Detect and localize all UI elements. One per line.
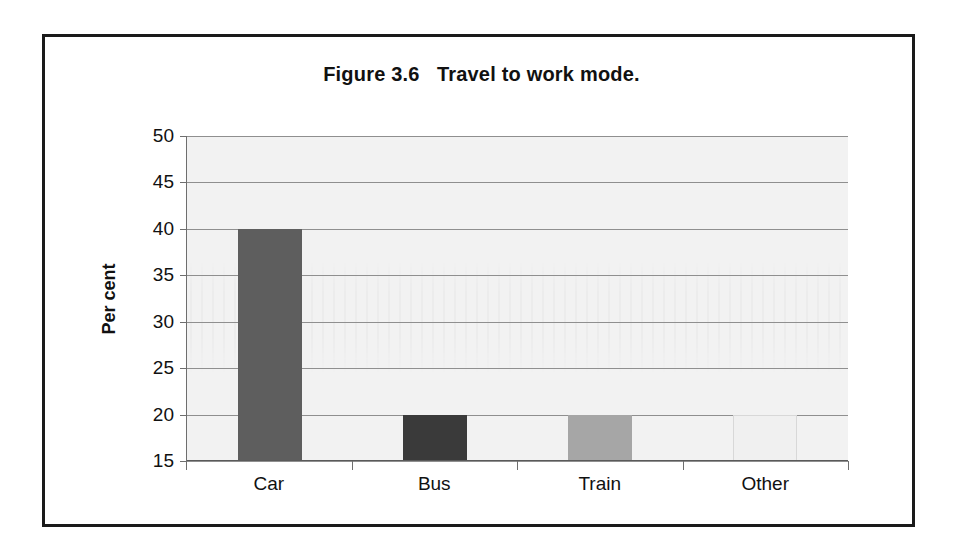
y-axis-tick-label: 25 bbox=[153, 357, 174, 379]
y-axis-tick-label: 30 bbox=[153, 311, 174, 333]
y-axis-tick-labels: 5045403530252015 bbox=[116, 136, 186, 461]
x-axis-tick-label-train: Train bbox=[517, 473, 683, 495]
x-axis-tick-labels: CarBusTrainOther bbox=[186, 473, 848, 495]
x-axis-tick-label-other: Other bbox=[683, 473, 849, 495]
y-axis-title: Per cent bbox=[99, 263, 120, 334]
bar-slot bbox=[187, 136, 352, 461]
bar-slot bbox=[518, 136, 683, 461]
x-axis-tick-mark bbox=[683, 461, 684, 470]
x-axis-tick-label-car: Car bbox=[186, 473, 352, 495]
y-axis-tick-label: 15 bbox=[153, 450, 174, 472]
x-axis-tick-marks bbox=[186, 461, 848, 470]
y-axis-tick-label: 35 bbox=[153, 264, 174, 286]
x-axis-tick-mark bbox=[186, 461, 187, 470]
figure-box: Figure 3.6 Travel to work mode. 50454035… bbox=[42, 34, 915, 527]
y-axis-tick-label: 45 bbox=[153, 171, 174, 193]
y-axis-tick-label: 50 bbox=[153, 125, 174, 147]
x-axis-tick-mark bbox=[848, 461, 849, 470]
bar-train[interactable] bbox=[568, 415, 632, 461]
bar-slot bbox=[683, 136, 848, 461]
y-axis-tick-label: 20 bbox=[153, 404, 174, 426]
x-axis-tick-mark bbox=[517, 461, 518, 470]
y-axis-tick-label: 40 bbox=[153, 218, 174, 240]
bar-slot bbox=[352, 136, 517, 461]
plot-wrapper: 5045403530252015 Per cent bbox=[186, 136, 848, 461]
chart-title: Figure 3.6 Travel to work mode. bbox=[45, 63, 918, 86]
bar-other[interactable] bbox=[733, 415, 797, 461]
plot-area bbox=[186, 136, 848, 461]
bar-bus[interactable] bbox=[403, 415, 467, 461]
x-axis-tick-label-bus: Bus bbox=[352, 473, 518, 495]
bar-car[interactable] bbox=[238, 229, 302, 461]
bars-layer bbox=[187, 136, 848, 461]
x-axis-tick-mark bbox=[352, 461, 353, 470]
